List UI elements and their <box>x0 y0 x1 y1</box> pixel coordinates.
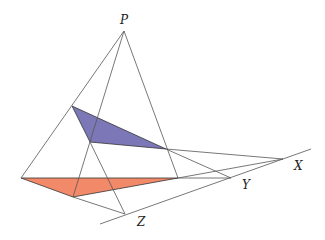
lower-triangle <box>21 178 178 197</box>
label-x: X <box>293 159 303 173</box>
desargues-diagram: P X Y Z <box>0 0 325 240</box>
label-p: P <box>119 13 129 27</box>
upper-triangle <box>72 106 166 149</box>
side-lower-ac-to-x <box>178 159 283 178</box>
ray-p-a <box>21 31 124 178</box>
side-lower-ab-to-z <box>73 197 125 214</box>
label-y: Y <box>242 178 251 192</box>
side-upper-ac-to-x <box>166 149 283 159</box>
label-z: Z <box>136 215 146 229</box>
ray-p-c <box>124 31 178 178</box>
